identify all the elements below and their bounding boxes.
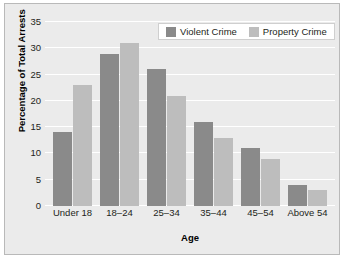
x-tick-label: Under 18	[49, 208, 96, 218]
legend-label: Violent Crime	[180, 27, 237, 37]
bar[interactable]	[147, 69, 166, 206]
x-tick-label: Above 54	[284, 208, 331, 218]
legend-swatch-icon	[166, 27, 176, 37]
y-tick-label: 15	[30, 122, 41, 132]
bar-group	[237, 22, 284, 206]
legend-swatch-icon	[249, 27, 259, 37]
bar[interactable]	[288, 185, 307, 206]
bar-chart-figure: 05101520253035 Percentage of Total Arres…	[0, 0, 344, 259]
bar-group	[96, 22, 143, 206]
bar[interactable]	[214, 138, 233, 206]
y-tick-label: 35	[30, 17, 41, 27]
chart-panel: 05101520253035 Percentage of Total Arres…	[4, 3, 340, 255]
bar[interactable]	[241, 148, 260, 206]
x-tick-label: 35–44	[190, 208, 237, 218]
bar-group	[49, 22, 96, 206]
x-tick-label: 45–54	[237, 208, 284, 218]
legend-item[interactable]: Property Crime	[249, 27, 327, 37]
bar-groups	[45, 22, 335, 206]
y-tick-label: 5	[36, 175, 41, 185]
bar-group	[143, 22, 190, 206]
x-axis-tick-labels: Under 1818–2425–3435–4445–54Above 54	[45, 208, 335, 218]
y-axis-title: Percentage of Total Arrests	[17, 6, 27, 136]
x-tick-label: 25–34	[143, 208, 190, 218]
y-tick-label: 0	[36, 201, 41, 211]
bar[interactable]	[308, 190, 327, 206]
y-tick-label: 25	[30, 70, 41, 80]
y-tick-label: 20	[30, 96, 41, 106]
bar[interactable]	[100, 54, 119, 206]
x-tick-label: 18–24	[96, 208, 143, 218]
bar[interactable]	[120, 43, 139, 206]
bar[interactable]	[261, 159, 280, 206]
bar[interactable]	[53, 132, 72, 206]
legend-label: Property Crime	[263, 27, 327, 37]
x-axis-title: Age	[45, 233, 335, 243]
legend-item[interactable]: Violent Crime	[166, 27, 237, 37]
plot-area	[45, 22, 335, 206]
y-tick-label: 10	[30, 149, 41, 159]
bar[interactable]	[194, 122, 213, 206]
chart-legend: Violent CrimeProperty Crime	[158, 23, 335, 40]
bar[interactable]	[167, 96, 186, 206]
bar[interactable]	[73, 85, 92, 206]
y-tick-label: 30	[30, 44, 41, 54]
bar-group	[284, 22, 331, 206]
bar-group	[190, 22, 237, 206]
